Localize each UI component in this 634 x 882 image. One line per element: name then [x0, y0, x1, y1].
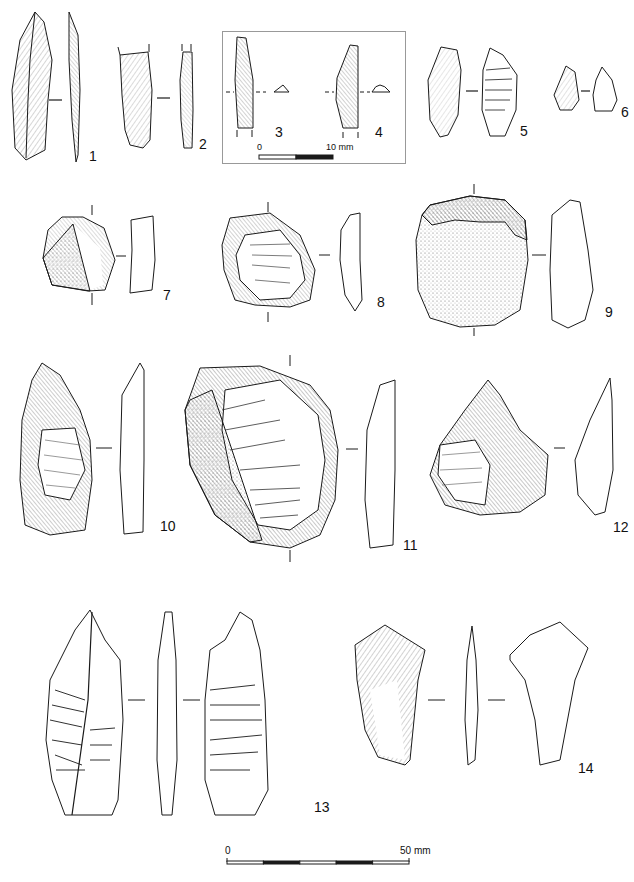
- artefact-5: [428, 47, 517, 137]
- artefact-7: [43, 205, 155, 305]
- label-8: 8: [377, 294, 385, 310]
- label-13: 13: [314, 799, 330, 815]
- label-1: 1: [89, 148, 97, 164]
- label-7: 7: [163, 287, 171, 303]
- main-scale-start: 0: [225, 845, 231, 856]
- inset-scale-end: 10 mm: [326, 142, 354, 152]
- label-12: 12: [613, 519, 629, 535]
- inset-scale-start: 0: [257, 142, 262, 152]
- artefact-10: [20, 363, 144, 535]
- label-4: 4: [375, 124, 383, 140]
- artefact-14: [355, 622, 588, 765]
- label-2: 2: [199, 136, 207, 152]
- main-scale-end: 50 mm: [400, 845, 431, 856]
- inset-frame: [222, 31, 406, 164]
- artefact-2: [118, 44, 193, 148]
- artefact-8: [222, 202, 362, 322]
- artefact-11: [185, 355, 395, 562]
- label-9: 9: [605, 304, 613, 320]
- label-6: 6: [621, 104, 629, 120]
- label-5: 5: [520, 123, 528, 139]
- artefact-13: [46, 610, 268, 815]
- label-11: 11: [403, 537, 418, 553]
- main-scale-bar: [227, 858, 409, 864]
- label-3: 3: [275, 124, 283, 140]
- artefact-9: [416, 184, 593, 336]
- artefact-1: [12, 12, 80, 162]
- artefact-12: [430, 378, 613, 515]
- label-10: 10: [160, 518, 176, 534]
- label-14: 14: [578, 760, 594, 776]
- artefact-6: [554, 66, 617, 111]
- lithic-plate: 1 2 3 4 5 6 7 8 9 10 11 12 13 14 0 10 mm…: [0, 0, 634, 882]
